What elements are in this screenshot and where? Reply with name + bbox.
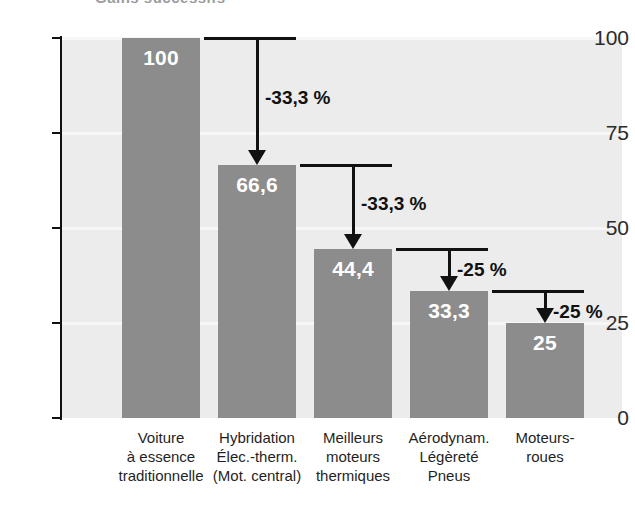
category-label-line: moteurs: [305, 447, 401, 466]
arrow-head-icon: [248, 150, 266, 165]
y-tick-mark: [52, 227, 62, 229]
delta-label: -33,3 %: [361, 193, 426, 215]
category-label: Meilleursmoteursthermiques: [305, 428, 401, 485]
category-label-line: Moteurs-: [497, 428, 593, 447]
category-label: Voitureà essencetraditionnelle: [113, 428, 209, 485]
arrow-stem: [352, 165, 355, 236]
delta-label: -25 %: [457, 259, 507, 281]
y-tick-mark: [52, 37, 62, 39]
category-label-line: Pneus: [401, 466, 497, 485]
delta-label: -33,3 %: [265, 87, 330, 109]
category-label: Moteurs-roues: [497, 428, 593, 466]
bar-value-label: 25: [506, 331, 584, 355]
reference-line: [492, 290, 584, 293]
bar-value-label: 44,4: [314, 257, 392, 281]
bar: 33,3: [410, 291, 488, 418]
reference-line: [204, 37, 296, 40]
y-tick-mark: [52, 417, 62, 419]
y-tick-label: 100: [583, 26, 635, 50]
bar: 66,6: [218, 165, 296, 418]
bar-value-label: 33,3: [410, 299, 488, 323]
y-tick-mark: [52, 132, 62, 134]
category-label-line: Hybridation: [209, 428, 305, 447]
reference-line: [300, 164, 392, 167]
category-label: HybridationÉlec.-therm.(Mot. central): [209, 428, 305, 485]
chart-title-text: Gains successifs: [95, 0, 226, 6]
arrow-head-icon: [344, 234, 362, 249]
category-label-line: Aérodynam.: [401, 428, 497, 447]
category-label-line: Voiture: [113, 428, 209, 447]
y-tick-label: 75: [583, 121, 635, 145]
arrow-stem: [256, 38, 259, 152]
category-label-line: roues: [497, 447, 593, 466]
category-label-line: Légèreté: [401, 447, 497, 466]
y-tick-label: 50: [583, 216, 635, 240]
category-label-line: (Mot. central): [209, 466, 305, 485]
bar: 25: [506, 323, 584, 418]
bar-value-label: 100: [122, 46, 200, 70]
category-label-line: thermiques: [305, 466, 401, 485]
y-tick-mark: [52, 322, 62, 324]
category-label-line: à essence: [113, 447, 209, 466]
bar: 100: [122, 38, 200, 418]
bar: 44,4: [314, 249, 392, 418]
y-tick-label: 0: [583, 406, 635, 430]
arrow-head-icon: [536, 308, 554, 323]
reference-line: [396, 248, 488, 251]
arrow-stem: [448, 249, 451, 278]
category-label: Aérodynam.LégèretéPneus: [401, 428, 497, 485]
category-label-line: traditionnelle: [113, 466, 209, 485]
bar-value-label: 66,6: [218, 173, 296, 197]
arrow-head-icon: [440, 276, 458, 291]
delta-label: -25 %: [553, 301, 603, 323]
category-label-line: Élec.-therm.: [209, 447, 305, 466]
category-label-line: Meilleurs: [305, 428, 401, 447]
bar-chart-figure: Gains successifs 1007550250 10066,644,43…: [0, 0, 635, 505]
chart-title-clipped: Gains successifs: [0, 0, 635, 12]
